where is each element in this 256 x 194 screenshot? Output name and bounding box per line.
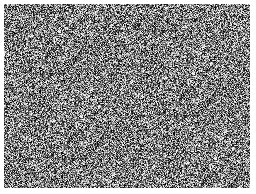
- noise-field: [4, 4, 250, 188]
